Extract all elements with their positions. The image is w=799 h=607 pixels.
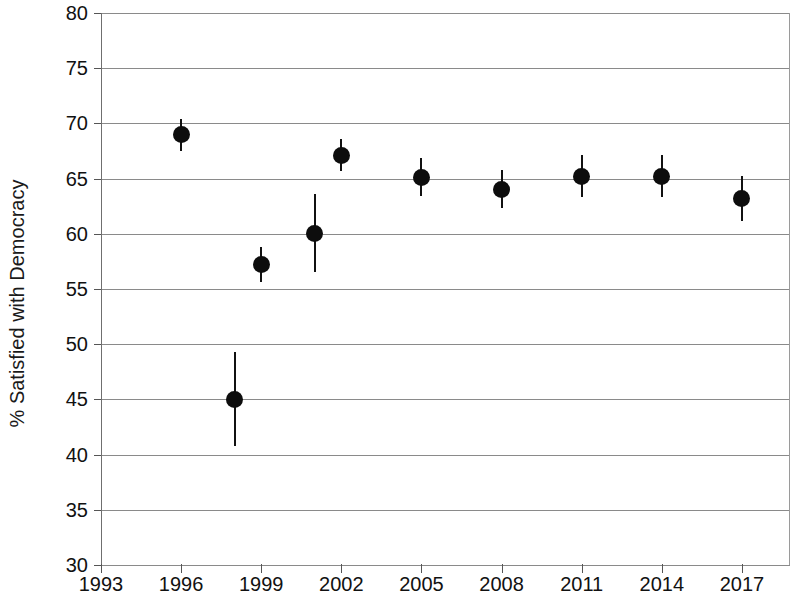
y-axis-tick-label: 65: [26, 169, 88, 189]
x-axis-tick-label: 2017: [697, 572, 787, 596]
data-point: [226, 391, 243, 408]
x-axis-tick-label: 1999: [216, 572, 306, 596]
y-axis-tick-label-group: 3035404550556065707580: [26, 0, 88, 607]
data-point: [173, 126, 190, 143]
y-axis-tick-label: 80: [26, 3, 88, 23]
data-point: [573, 168, 590, 185]
data-point: [733, 190, 750, 207]
y-axis-tick-label: 75: [26, 58, 88, 78]
y-axis-tick-label: 35: [26, 500, 88, 520]
y-axis-tick-label: 50: [26, 334, 88, 354]
x-axis-tick-label: 2002: [296, 572, 386, 596]
x-axis-tick-label: 1996: [136, 572, 226, 596]
y-axis-tick-label: 40: [26, 445, 88, 465]
plot-area: [101, 13, 790, 565]
data-point: [493, 181, 510, 198]
data-point: [333, 147, 350, 164]
gridline: [101, 565, 790, 566]
x-axis-tick-label: 2008: [457, 572, 547, 596]
data-series-layer: [101, 13, 790, 565]
x-axis-tick-label: 2005: [376, 572, 466, 596]
x-axis-tick-label-group: 199319961999200220052008201120142017: [0, 572, 799, 606]
y-axis-tick-label: 55: [26, 279, 88, 299]
data-point: [253, 256, 270, 273]
y-axis-tick-label: 70: [26, 113, 88, 133]
x-axis-tick-label: 2014: [617, 572, 707, 596]
chart-container: % Satisfied with Democracy 3035404550556…: [0, 0, 799, 607]
x-axis-tick-label: 1993: [56, 572, 146, 596]
data-point: [653, 168, 670, 185]
data-point: [413, 169, 430, 186]
y-axis-tick-label: 60: [26, 224, 88, 244]
data-point: [306, 225, 323, 242]
y-axis-tick-label: 45: [26, 389, 88, 409]
x-axis-tick-label: 2011: [537, 572, 627, 596]
